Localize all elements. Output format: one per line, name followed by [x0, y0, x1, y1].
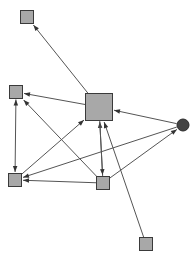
node-left-bottom[interactable] — [9, 174, 22, 187]
node-left-middle[interactable] — [10, 86, 23, 99]
node-right-circle[interactable] — [177, 119, 189, 131]
node-top-left[interactable] — [21, 11, 34, 24]
node-bottom-middle[interactable] — [97, 177, 110, 190]
graph-diagram — [0, 0, 196, 261]
node-center-hub[interactable] — [86, 94, 113, 121]
node-bottom-right[interactable] — [140, 238, 153, 251]
